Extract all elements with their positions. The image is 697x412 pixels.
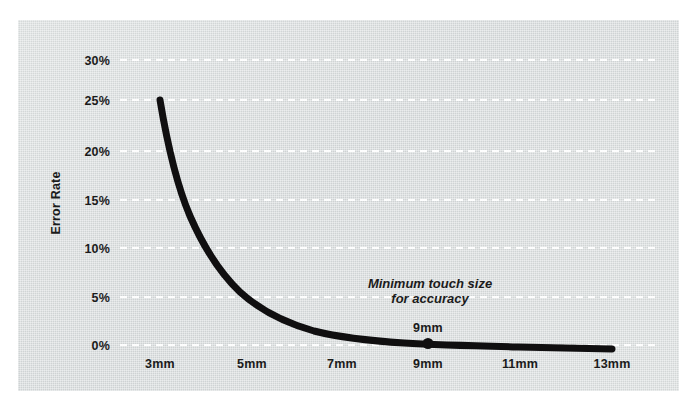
data-point-label-9mm: 9mm	[413, 321, 443, 335]
y-tick-25: 25%	[84, 94, 110, 108]
error-rate-line-chart: 30% 25% 20% 15% 10% 5% 0% Error Rate Min…	[18, 20, 679, 391]
x-axis-tick-labels: 3mm 5mm 7mm 9mm 11mm 13mm	[145, 357, 630, 371]
y-tick-15: 15%	[84, 194, 110, 208]
screenshot-root: 30% 25% 20% 15% 10% 5% 0% Error Rate Min…	[0, 0, 697, 412]
x-tick-7mm: 7mm	[327, 357, 357, 371]
data-point-marker-9mm	[423, 338, 434, 349]
annotation-line-1: Minimum touch size	[368, 276, 492, 291]
x-tick-13mm: 13mm	[594, 357, 631, 371]
x-tick-5mm: 5mm	[237, 357, 267, 371]
y-tick-5: 5%	[92, 291, 110, 305]
series-error-rate	[160, 100, 612, 349]
chart-panel: 30% 25% 20% 15% 10% 5% 0% Error Rate Min…	[18, 20, 679, 391]
y-tick-10: 10%	[84, 242, 110, 256]
y-tick-30: 30%	[84, 54, 110, 68]
x-tick-11mm: 11mm	[502, 357, 538, 371]
x-tick-3mm: 3mm	[145, 357, 175, 371]
y-axis-tick-labels: 30% 25% 20% 15% 10% 5% 0%	[84, 54, 110, 353]
y-tick-20: 20%	[84, 145, 110, 159]
x-tick-9mm: 9mm	[413, 357, 443, 371]
y-axis-title: Error Rate	[49, 171, 63, 234]
minimum-touch-size-annotation: Minimum touch size for accuracy	[368, 276, 492, 306]
gridlines	[120, 60, 660, 345]
annotation-line-2: for accuracy	[391, 291, 469, 306]
y-tick-0: 0%	[92, 339, 110, 353]
